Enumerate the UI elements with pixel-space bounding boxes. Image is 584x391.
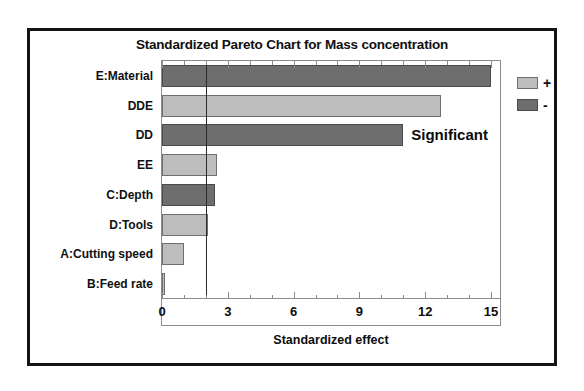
x-tick-top [359, 61, 360, 68]
bar-d-tools [162, 214, 208, 236]
legend-item: - [517, 98, 557, 112]
bar-dd [162, 124, 403, 146]
bar-row: C:Depth [162, 180, 500, 210]
x-tick-major [162, 292, 163, 299]
x-tick-top [294, 61, 295, 68]
legend-label: + [543, 76, 551, 90]
x-tick-minor [316, 295, 317, 299]
x-tick-minor [337, 295, 338, 299]
plot-area: E:MaterialDDEDDEEC:DepthD:ToolsA:Cutting… [161, 60, 501, 326]
x-axis-line [162, 298, 500, 299]
chart-legend: +- [517, 76, 557, 120]
x-tick-label: 9 [356, 304, 363, 319]
x-tick-minor [447, 295, 448, 299]
x-tick-label: 15 [484, 304, 498, 319]
x-tick-top [272, 61, 273, 65]
bar-dde [162, 95, 441, 117]
significant-annotation-label: Significant [411, 126, 488, 143]
x-tick-label: 12 [418, 304, 432, 319]
legend-item: + [517, 76, 557, 90]
bar-row: D:Tools [162, 210, 500, 240]
legend-label: - [543, 98, 548, 112]
category-label: A:Cutting speed [60, 247, 153, 261]
chart-title: Standardized Pareto Chart for Mass conce… [30, 37, 554, 52]
x-tick-top [381, 61, 382, 65]
x-tick-minor [206, 295, 207, 299]
x-tick-major [359, 292, 360, 299]
category-label: E:Material [96, 69, 153, 83]
category-label: DD [136, 128, 153, 142]
x-tick-top [469, 61, 470, 65]
x-tick-major [294, 292, 295, 299]
x-tick-label: 6 [290, 304, 297, 319]
significance-reference-line [206, 61, 207, 299]
x-tick-top [184, 61, 185, 65]
x-tick-top [228, 61, 229, 68]
bar-row: DDE [162, 91, 500, 121]
x-tick-minor [403, 295, 404, 299]
category-label: C:Depth [106, 188, 153, 202]
x-tick-top [491, 61, 492, 68]
x-tick-top [403, 61, 404, 65]
x-tick-minor [184, 295, 185, 299]
bar-e-material [162, 65, 491, 87]
x-tick-top [162, 61, 163, 68]
x-tick-top [206, 61, 207, 65]
legend-swatch-negative [517, 99, 538, 111]
x-tick-major [491, 292, 492, 299]
bar-row: A:Cutting speed [162, 240, 500, 270]
x-tick-top [250, 61, 251, 65]
bar-row: EE [162, 150, 500, 180]
x-tick-top [316, 61, 317, 65]
bar-a-cutting-speed [162, 243, 184, 265]
x-tick-label: 0 [158, 304, 165, 319]
category-label: B:Feed rate [87, 277, 153, 291]
bar-ee [162, 154, 217, 176]
x-tick-minor [272, 295, 273, 299]
bar-row: B:Feed rate [162, 269, 500, 299]
x-tick-major [228, 292, 229, 299]
category-label: EE [137, 158, 153, 172]
category-label: DDE [128, 99, 153, 113]
x-tick-major [425, 292, 426, 299]
x-tick-minor [469, 295, 470, 299]
category-label: D:Tools [109, 218, 153, 232]
x-axis-title: Standardized effect [162, 333, 500, 347]
x-tick-minor [381, 295, 382, 299]
bar-rows-container: E:MaterialDDEDDEEC:DepthD:ToolsA:Cutting… [162, 61, 500, 299]
x-tick-top [337, 61, 338, 65]
x-tick-minor [250, 295, 251, 299]
x-tick-label: 3 [224, 304, 231, 319]
legend-swatch-positive [517, 77, 538, 89]
chart-figure-frame: Standardized Pareto Chart for Mass conce… [27, 28, 557, 366]
x-tick-top [447, 61, 448, 65]
x-tick-top [425, 61, 426, 68]
bar-row: E:Material [162, 61, 500, 91]
